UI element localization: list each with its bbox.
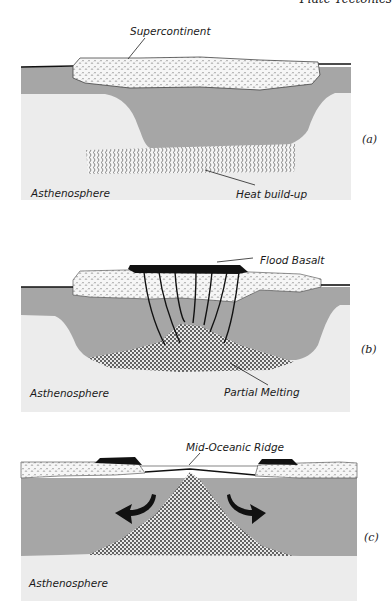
label-heat-buildup: Heat build-up [236, 188, 308, 200]
label-mid-oceanic-ridge: Mid-Oceanic Ridge [186, 441, 284, 453]
panel-label-a: (a) [362, 133, 377, 146]
label-asthenosphere-c: Asthenosphere [28, 577, 108, 589]
flood-basalt [128, 265, 248, 274]
ocean-floor-c [145, 469, 255, 475]
ocean-surface-left-a [21, 66, 73, 67]
panel-c: Mid-Oceanic Ridge Asthenosphere (c) [21, 441, 379, 601]
callout-line-ridge [189, 453, 200, 465]
rifting-diagram: Supercontinent Heat build-up Asthenosphe… [0, 0, 392, 614]
continent-right-c [255, 462, 357, 478]
panel-a: Supercontinent Heat build-up Asthenosphe… [21, 25, 377, 200]
callout-line-basalt [217, 258, 253, 262]
basalt-right-c [258, 459, 298, 465]
callout-line-supercontinent [128, 38, 145, 59]
panel-label-b: (b) [361, 343, 377, 356]
continent-left-c [21, 462, 145, 478]
label-flood-basalt: Flood Basalt [260, 254, 325, 266]
supercontinent [73, 57, 320, 90]
label-partial-melting: Partial Melting [224, 386, 300, 398]
label-supercontinent: Supercontinent [130, 25, 211, 37]
panel-label-c: (c) [364, 531, 379, 544]
panel-b: Flood Basalt Partial Melting Asthenosphe… [21, 254, 377, 412]
label-asthenosphere-b: Asthenosphere [29, 387, 109, 399]
label-asthenosphere-a: Asthenosphere [30, 187, 110, 199]
